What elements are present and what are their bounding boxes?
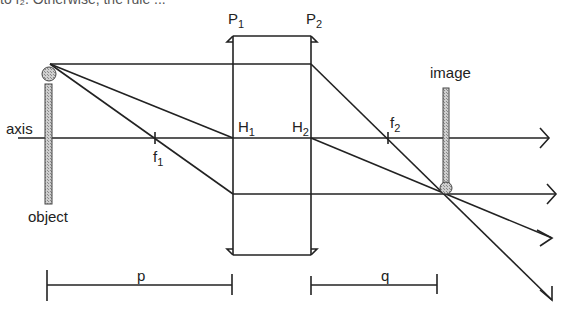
lens-top-right-corner (311, 36, 317, 42)
image-tip (440, 182, 452, 194)
ray-principal-out (311, 138, 552, 238)
lens-top-left-corner (227, 36, 233, 42)
q-label: q (381, 267, 389, 284)
f1-label: f1 (153, 148, 163, 168)
lens-bottom-right-corner (311, 249, 317, 255)
ray-focal-in (50, 64, 233, 194)
image-label: image (430, 64, 471, 81)
axis-label: axis (6, 120, 33, 137)
p-label: p (137, 267, 145, 284)
h2-label: H2 (292, 118, 309, 138)
f2-label: f2 (390, 114, 400, 134)
object-tip (42, 67, 56, 81)
lens-bottom-left-corner (227, 249, 233, 255)
h1-label: H1 (238, 118, 255, 138)
p2-label: P2 (306, 10, 322, 30)
object-arrow (45, 84, 52, 204)
p1-label: P1 (228, 10, 244, 30)
object-label: object (28, 208, 69, 225)
ray-parallel-out (311, 64, 552, 300)
ray1-arrowhead-icon (540, 286, 552, 300)
ray-principal-in (50, 64, 233, 138)
thick-lens-ray-diagram: axis object image P1 P2 H1 H2 f1 f2 p q (0, 0, 564, 309)
image-arrow (443, 88, 449, 184)
